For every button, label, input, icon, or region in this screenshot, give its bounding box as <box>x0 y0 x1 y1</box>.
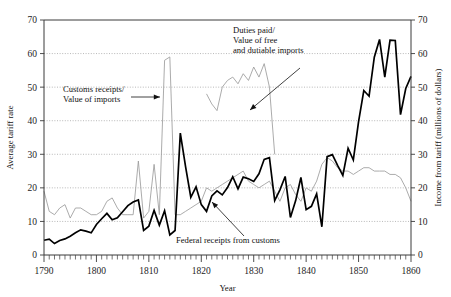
xtick-label-1810: 1810 <box>139 266 158 276</box>
ytick-label-right-30: 30 <box>418 150 428 160</box>
ytick-label-left-40: 40 <box>28 116 38 126</box>
chart-figure: 0102030405060700102030405060701790180018… <box>0 0 451 297</box>
ytick-label-left-30: 30 <box>28 150 38 160</box>
tariff-chart: 0102030405060700102030405060701790180018… <box>0 0 451 297</box>
xtick-label-1800: 1800 <box>87 266 106 276</box>
x-axis-title: Year <box>219 283 235 293</box>
ytick-label-right-20: 20 <box>418 183 428 193</box>
ytick-label-right-10: 10 <box>418 217 428 227</box>
ytick-label-left-70: 70 <box>28 15 38 25</box>
ytick-label-left-10: 10 <box>28 217 38 227</box>
ytick-label-right-0: 0 <box>418 250 423 260</box>
ytick-label-left-60: 60 <box>28 49 38 59</box>
xtick-label-1820: 1820 <box>192 266 211 276</box>
chart-background <box>0 0 451 297</box>
xtick-label-1860: 1860 <box>402 266 421 276</box>
xtick-label-1850: 1850 <box>349 266 368 276</box>
xtick-label-1830: 1830 <box>244 266 263 276</box>
ytick-label-right-60: 60 <box>418 49 428 59</box>
xtick-label-1840: 1840 <box>297 266 316 276</box>
ytick-label-left-0: 0 <box>32 250 37 260</box>
annotation-text-customs-receipts: Customs receipts/Value of imports <box>63 84 125 104</box>
ytick-label-right-50: 50 <box>418 83 428 93</box>
ytick-label-right-70: 70 <box>418 15 428 25</box>
y-axis-title-left: Average tariff rate <box>5 105 15 169</box>
ytick-label-left-50: 50 <box>28 83 38 93</box>
y-axis-title-right: Income from tariff (millions of dollars) <box>433 69 443 207</box>
ytick-label-right-40: 40 <box>418 116 428 126</box>
ytick-label-left-20: 20 <box>28 183 38 193</box>
xtick-label-1790: 1790 <box>35 266 54 276</box>
annotation-text-federal-receipts: Federal receipts from customs <box>176 235 280 245</box>
